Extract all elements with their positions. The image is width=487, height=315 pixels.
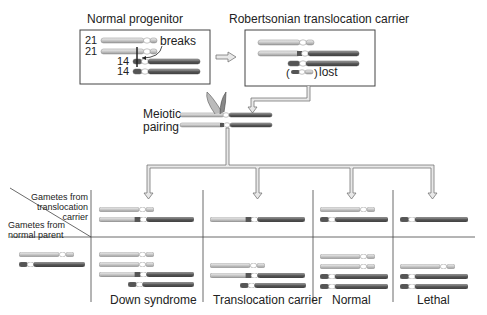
- meiotic-pairing-chromosomes: [180, 92, 272, 127]
- normal-zygote-chr21-a: [320, 254, 375, 259]
- carrier-chr21: [258, 40, 314, 45]
- svg-text:): ): [314, 67, 318, 79]
- normal-chr21-b: [101, 49, 157, 54]
- down-zygote-chr21-a: [99, 252, 154, 257]
- distribution-arrows-icon: [144, 128, 437, 199]
- normal-gamete-chr21: [19, 252, 74, 257]
- normal-chr14-a: [133, 59, 200, 64]
- carrier-gamete-4-chr14: [400, 217, 468, 222]
- outcome-lethal: Lethal: [417, 293, 450, 307]
- meiotic-pairing-label-1: Meiotic: [143, 107, 181, 121]
- down-zygote-fused: [99, 272, 194, 277]
- meiotic-pairing-label-2: pairing: [143, 120, 179, 134]
- chr14-label-b: 14: [117, 65, 129, 77]
- diagram-canvas: ( ): [0, 0, 487, 315]
- carrier-zygote-chr21: [210, 263, 265, 268]
- carrier-zygote-fused: [210, 273, 305, 278]
- carrier-gamete-1-chr21: [99, 207, 154, 212]
- carrier-fused-chr: [258, 51, 359, 56]
- outcome-translocation-carrier: Translocation carrier: [213, 293, 322, 307]
- normal-zygote-chr14-b: [320, 284, 388, 289]
- chr21-label-b: 21: [85, 45, 97, 57]
- lethal-zygote-chr14-a: [400, 274, 468, 279]
- normal-chr14-b: [133, 69, 200, 74]
- down-zygote-chr21-b: [99, 262, 154, 267]
- carrier-gamete-2-fused: [210, 217, 305, 222]
- normal-chr21-a: [101, 38, 157, 43]
- header-carrier-gametes: Gametes from translocation carrier: [30, 192, 88, 222]
- carrier-to-pairing-arrow-icon: [248, 86, 310, 113]
- carrier-title: Robertsonian translocation carrier: [229, 12, 409, 26]
- lost-label: lost: [319, 65, 338, 79]
- lethal-zygote-chr21: [400, 264, 455, 269]
- down-zygote-chr14: [128, 282, 194, 287]
- carrier-box: [245, 30, 375, 86]
- carrier-gamete-1-fused: [99, 217, 194, 222]
- transition-arrow-icon: [216, 52, 236, 62]
- outcome-down-syndrome: Down syndrome: [110, 293, 197, 307]
- header-normal-gametes: Gametes from normal parent: [8, 220, 62, 240]
- normal-zygote-chr21-b: [320, 264, 375, 269]
- lethal-zygote-chr14-b: [400, 284, 468, 289]
- svg-text:(: (: [286, 67, 290, 79]
- carrier-gamete-3-chr21: [320, 207, 375, 212]
- normal-gamete-chr14: [19, 262, 85, 267]
- carrier-zygote-chr14: [240, 283, 306, 288]
- normal-zygote-chr14-a: [320, 274, 388, 279]
- normal-progenitor-title: Normal progenitor: [87, 12, 183, 26]
- carrier-gamete-3-chr14: [320, 217, 388, 222]
- breaks-label: breaks: [160, 34, 196, 48]
- outcome-normal: Normal: [332, 293, 371, 307]
